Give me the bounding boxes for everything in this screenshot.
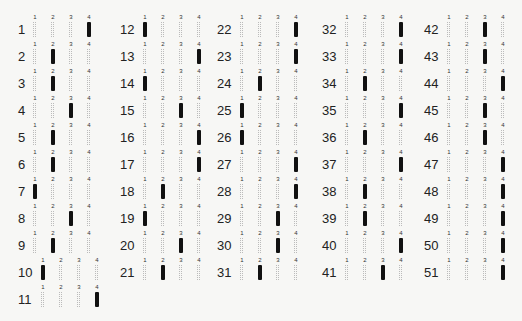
empty-bubble[interactable] — [87, 76, 90, 91]
filled-bubble[interactable] — [197, 130, 201, 145]
empty-bubble[interactable] — [276, 103, 279, 118]
empty-bubble[interactable] — [143, 238, 146, 253]
empty-bubble[interactable] — [33, 22, 36, 37]
empty-bubble[interactable] — [465, 184, 468, 199]
empty-bubble[interactable] — [41, 292, 44, 307]
empty-bubble[interactable] — [69, 49, 72, 64]
empty-bubble[interactable] — [258, 157, 261, 172]
filled-bubble[interactable] — [258, 265, 262, 280]
filled-bubble[interactable] — [381, 265, 385, 280]
empty-bubble[interactable] — [447, 265, 450, 280]
empty-bubble[interactable] — [87, 238, 90, 253]
empty-bubble[interactable] — [161, 157, 164, 172]
empty-bubble[interactable] — [179, 184, 182, 199]
empty-bubble[interactable] — [483, 211, 486, 226]
filled-bubble[interactable] — [399, 22, 403, 37]
filled-bubble[interactable] — [143, 76, 147, 91]
empty-bubble[interactable] — [399, 265, 402, 280]
empty-bubble[interactable] — [161, 22, 164, 37]
empty-bubble[interactable] — [51, 103, 54, 118]
empty-bubble[interactable] — [345, 157, 348, 172]
filled-bubble[interactable] — [179, 238, 183, 253]
filled-bubble[interactable] — [143, 22, 147, 37]
empty-bubble[interactable] — [294, 130, 297, 145]
empty-bubble[interactable] — [179, 130, 182, 145]
filled-bubble[interactable] — [501, 184, 505, 199]
filled-bubble[interactable] — [197, 49, 201, 64]
empty-bubble[interactable] — [258, 211, 261, 226]
filled-bubble[interactable] — [240, 103, 244, 118]
filled-bubble[interactable] — [51, 238, 55, 253]
filled-bubble[interactable] — [87, 22, 91, 37]
empty-bubble[interactable] — [240, 184, 243, 199]
empty-bubble[interactable] — [465, 22, 468, 37]
filled-bubble[interactable] — [363, 130, 367, 145]
empty-bubble[interactable] — [143, 157, 146, 172]
empty-bubble[interactable] — [381, 184, 384, 199]
empty-bubble[interactable] — [179, 211, 182, 226]
empty-bubble[interactable] — [143, 103, 146, 118]
empty-bubble[interactable] — [87, 184, 90, 199]
filled-bubble[interactable] — [161, 265, 165, 280]
empty-bubble[interactable] — [363, 265, 366, 280]
filled-bubble[interactable] — [240, 130, 244, 145]
empty-bubble[interactable] — [95, 265, 98, 280]
empty-bubble[interactable] — [276, 265, 279, 280]
empty-bubble[interactable] — [179, 157, 182, 172]
filled-bubble[interactable] — [294, 49, 298, 64]
empty-bubble[interactable] — [465, 265, 468, 280]
empty-bubble[interactable] — [447, 238, 450, 253]
empty-bubble[interactable] — [77, 292, 80, 307]
empty-bubble[interactable] — [258, 22, 261, 37]
empty-bubble[interactable] — [240, 157, 243, 172]
empty-bubble[interactable] — [33, 130, 36, 145]
empty-bubble[interactable] — [381, 211, 384, 226]
empty-bubble[interactable] — [381, 238, 384, 253]
empty-bubble[interactable] — [447, 103, 450, 118]
filled-bubble[interactable] — [51, 49, 55, 64]
empty-bubble[interactable] — [161, 130, 164, 145]
empty-bubble[interactable] — [69, 22, 72, 37]
filled-bubble[interactable] — [363, 76, 367, 91]
empty-bubble[interactable] — [240, 49, 243, 64]
empty-bubble[interactable] — [33, 49, 36, 64]
empty-bubble[interactable] — [447, 22, 450, 37]
empty-bubble[interactable] — [294, 76, 297, 91]
empty-bubble[interactable] — [345, 265, 348, 280]
empty-bubble[interactable] — [143, 265, 146, 280]
filled-bubble[interactable] — [483, 130, 487, 145]
empty-bubble[interactable] — [179, 265, 182, 280]
filled-bubble[interactable] — [276, 238, 280, 253]
filled-bubble[interactable] — [363, 211, 367, 226]
empty-bubble[interactable] — [483, 157, 486, 172]
empty-bubble[interactable] — [345, 130, 348, 145]
empty-bubble[interactable] — [501, 130, 504, 145]
empty-bubble[interactable] — [197, 76, 200, 91]
empty-bubble[interactable] — [240, 238, 243, 253]
empty-bubble[interactable] — [345, 238, 348, 253]
empty-bubble[interactable] — [197, 238, 200, 253]
empty-bubble[interactable] — [363, 22, 366, 37]
empty-bubble[interactable] — [399, 211, 402, 226]
filled-bubble[interactable] — [501, 238, 505, 253]
filled-bubble[interactable] — [276, 211, 280, 226]
filled-bubble[interactable] — [179, 103, 183, 118]
empty-bubble[interactable] — [465, 238, 468, 253]
empty-bubble[interactable] — [294, 238, 297, 253]
empty-bubble[interactable] — [143, 130, 146, 145]
filled-bubble[interactable] — [483, 49, 487, 64]
empty-bubble[interactable] — [363, 49, 366, 64]
empty-bubble[interactable] — [197, 184, 200, 199]
empty-bubble[interactable] — [59, 292, 62, 307]
empty-bubble[interactable] — [447, 49, 450, 64]
filled-bubble[interactable] — [95, 292, 99, 307]
filled-bubble[interactable] — [294, 22, 298, 37]
empty-bubble[interactable] — [258, 238, 261, 253]
empty-bubble[interactable] — [87, 103, 90, 118]
empty-bubble[interactable] — [51, 22, 54, 37]
empty-bubble[interactable] — [33, 103, 36, 118]
empty-bubble[interactable] — [447, 157, 450, 172]
empty-bubble[interactable] — [69, 184, 72, 199]
empty-bubble[interactable] — [501, 103, 504, 118]
empty-bubble[interactable] — [501, 49, 504, 64]
